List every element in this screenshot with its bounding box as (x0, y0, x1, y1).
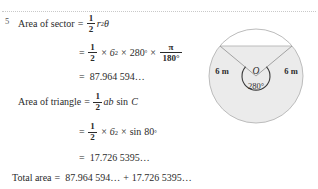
step-sector-result: = 87.964 594… (79, 72, 200, 83)
sector-area-value: 87.964 594… (90, 72, 145, 83)
step-total-area: Total area = 87.964 594… + 17.726 5395… (12, 173, 200, 184)
theta-symbol: θ (104, 19, 109, 30)
plus-sign: + (123, 173, 129, 184)
equals-sign: = (55, 173, 61, 184)
multiplication-sign: × (150, 48, 156, 59)
step-sector-substitution: = 1 2 × 62 × 280° × π 180° (79, 43, 200, 63)
fraction-numerator: π (167, 43, 176, 53)
total-area-label: Total area (12, 173, 52, 184)
center-point-label: O (253, 66, 260, 76)
equals-sign: = (79, 153, 85, 164)
area-of-sector-label: Area of sector (18, 19, 75, 30)
pi-over-180-fraction: π 180° (160, 43, 181, 63)
left-radius-label: 6 m (215, 66, 228, 76)
solution-steps: 5 Area of sector = 1 2 r2θ = 1 2 × 62 × … (0, 14, 200, 184)
multiplication-sign: × (121, 48, 127, 59)
step-area-of-sector: Area of sector = 1 2 r2θ (18, 14, 200, 34)
worked-solution-page: 5 Area of sector = 1 2 r2θ = 1 2 × 62 × … (0, 0, 318, 189)
multiplication-sign: × (101, 127, 107, 138)
unshaded-minor-segment (220, 29, 292, 46)
equals-sign: = (79, 127, 85, 138)
reflex-angle-label: 280° (248, 81, 264, 91)
fraction-numerator: 1 (93, 92, 102, 102)
one-half-fraction: 1 2 (88, 122, 97, 142)
step-triangle-result: = 17.726 5395… (79, 153, 200, 164)
fraction-denominator: 2 (88, 52, 97, 63)
right-radius-label: 6 m (284, 66, 297, 76)
fraction-numerator: 1 (88, 122, 97, 132)
total-area-term-one: 87.964 594… (65, 173, 120, 184)
multiplication-sign: × (121, 127, 127, 138)
fraction-numerator: 1 (87, 14, 96, 24)
fraction-numerator: 1 (88, 43, 97, 53)
fraction-denominator: 2 (93, 102, 102, 113)
total-area-term-two: 17.726 5395… (132, 173, 192, 184)
side-lengths-expression: ab (103, 97, 113, 108)
equals-sign: = (84, 97, 90, 108)
equals-sign: = (78, 19, 84, 30)
one-half-fraction: 1 2 (88, 43, 97, 63)
step-area-of-triangle: Area of triangle = 1 2 ab sin C (18, 93, 200, 113)
fraction-denominator: 2 (87, 23, 96, 34)
top-divider-rule (2, 11, 316, 12)
equals-sign: = (79, 72, 85, 83)
sine-function: sin (116, 97, 128, 108)
fraction-denominator: 180° (160, 52, 181, 63)
one-half-fraction: 1 2 (87, 14, 96, 34)
angle-value: 80 (144, 127, 154, 138)
one-half-fraction: 1 2 (93, 92, 102, 112)
area-of-triangle-label: Area of triangle (18, 97, 81, 108)
question-number: 5 (5, 16, 9, 26)
fraction-denominator: 2 (88, 132, 97, 143)
included-angle-variable: C (131, 97, 138, 108)
triangle-area-value: 17.726 5395… (90, 153, 150, 164)
angle-value: 280 (130, 48, 145, 59)
circle-sector-diagram: O 280° 6 m 6 m (196, 14, 316, 144)
step-triangle-substitution: = 1 2 × 62 × sin 80° (79, 123, 200, 143)
equals-sign: = (79, 48, 85, 59)
sine-function: sin (130, 127, 142, 138)
multiplication-sign: × (101, 48, 107, 59)
